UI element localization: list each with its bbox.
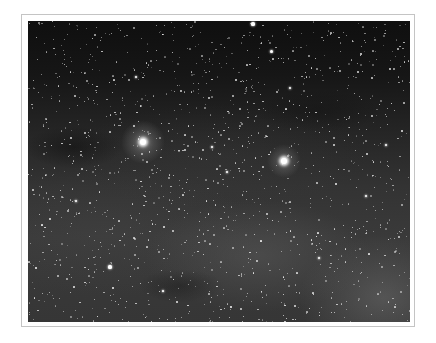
star: [390, 238, 391, 239]
star: [38, 22, 40, 24]
star: [110, 106, 111, 107]
star: [29, 312, 30, 313]
star: [201, 158, 203, 160]
star: [263, 108, 264, 109]
star: [168, 130, 169, 131]
star: [65, 127, 66, 128]
star: [173, 175, 174, 176]
star: [282, 201, 283, 202]
star: [290, 240, 292, 242]
star: [101, 37, 102, 38]
star: [316, 236, 317, 237]
star: [54, 26, 55, 27]
star: [281, 58, 283, 60]
star: [379, 263, 380, 264]
star: [204, 107, 206, 109]
star: [193, 125, 194, 126]
star: [221, 67, 222, 68]
star: [392, 185, 394, 187]
star: [380, 291, 381, 292]
star: [216, 168, 218, 170]
star: [244, 274, 245, 275]
star: [362, 156, 363, 157]
star: [80, 48, 81, 49]
star: [278, 89, 280, 91]
star: [351, 161, 352, 162]
star: [80, 151, 82, 153]
star: [207, 283, 208, 284]
star: [306, 45, 307, 46]
star: [145, 317, 146, 318]
star: [71, 277, 72, 278]
star: [34, 288, 35, 289]
star: [361, 46, 362, 47]
star: [198, 83, 199, 84]
star: [240, 288, 242, 290]
star: [81, 72, 83, 74]
star: [179, 57, 180, 58]
star: [267, 125, 269, 127]
star: [63, 185, 65, 187]
star: [133, 68, 134, 69]
star: [342, 204, 343, 205]
star: [176, 119, 177, 120]
star: [246, 90, 247, 91]
star: [285, 216, 286, 217]
star: [353, 41, 354, 42]
star: [172, 200, 173, 201]
star: [358, 113, 359, 114]
star: [361, 262, 362, 263]
star: [254, 234, 255, 235]
star: [249, 218, 250, 219]
star: [94, 207, 95, 208]
star: [173, 279, 174, 280]
star: [35, 267, 37, 269]
star: [325, 240, 327, 242]
star: [248, 262, 249, 263]
star: [321, 235, 322, 236]
star: [147, 100, 148, 101]
star: [189, 112, 190, 113]
star: [55, 305, 57, 307]
star: [46, 192, 48, 194]
star: [87, 97, 88, 98]
star: [62, 197, 64, 199]
star: [157, 168, 158, 169]
star: [362, 135, 363, 136]
star: [251, 301, 252, 302]
star: [224, 212, 225, 213]
star: [162, 34, 163, 35]
star: [380, 143, 381, 144]
star: [136, 246, 137, 247]
star: [47, 202, 48, 203]
star: [356, 135, 358, 137]
star: [374, 39, 376, 41]
star: [272, 321, 273, 322]
star: [49, 292, 50, 293]
star: [35, 225, 36, 226]
star: [360, 55, 361, 56]
star: [330, 263, 332, 265]
star: [57, 275, 59, 277]
star: [230, 306, 232, 308]
star: [213, 234, 215, 236]
star: [250, 259, 251, 260]
star: [316, 245, 317, 246]
star: [120, 30, 121, 31]
star: [253, 35, 254, 36]
star: [88, 269, 89, 270]
star: [169, 253, 170, 254]
star: [187, 213, 188, 214]
star: [235, 79, 236, 80]
star: [169, 199, 171, 201]
star: [323, 40, 324, 41]
star: [61, 217, 62, 218]
star: [144, 262, 145, 263]
star: [325, 276, 326, 277]
star: [365, 115, 366, 116]
star: [197, 177, 198, 178]
star: [220, 134, 222, 136]
star: [348, 85, 349, 86]
star: [331, 255, 332, 256]
star: [89, 59, 90, 60]
